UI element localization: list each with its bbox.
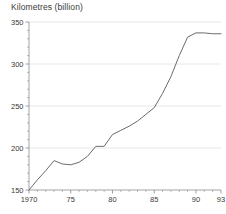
x-tick-label-1970: 1970	[21, 195, 38, 204]
y-axis-ticks	[26, 22, 30, 190]
x-axis-ticks	[29, 190, 221, 194]
y-tick-label-150: 150	[11, 186, 24, 195]
gridlines	[29, 22, 221, 148]
x-tick-label-85: 85	[150, 195, 158, 204]
y-tick-label-250: 250	[11, 102, 24, 111]
data-series	[29, 33, 221, 190]
x-tick-label-80: 80	[108, 195, 116, 204]
x-tick-label-90: 90	[192, 195, 200, 204]
x-axis-tick-labels: 19707580859093	[21, 195, 226, 204]
y-tick-label-300: 300	[11, 60, 24, 69]
x-tick-label-93: 93	[217, 195, 225, 204]
y-tick-label-350: 350	[11, 18, 24, 27]
y-axis-tick-labels: 150200250300350	[11, 18, 24, 195]
x-tick-label-75: 75	[67, 195, 75, 204]
series-line-0	[29, 33, 221, 190]
chart-container: Kilometres (billion) 150200250300350 197…	[0, 0, 226, 214]
y-tick-label-200: 200	[11, 144, 24, 153]
line-chart-plot: 150200250300350 19707580859093	[0, 0, 226, 214]
